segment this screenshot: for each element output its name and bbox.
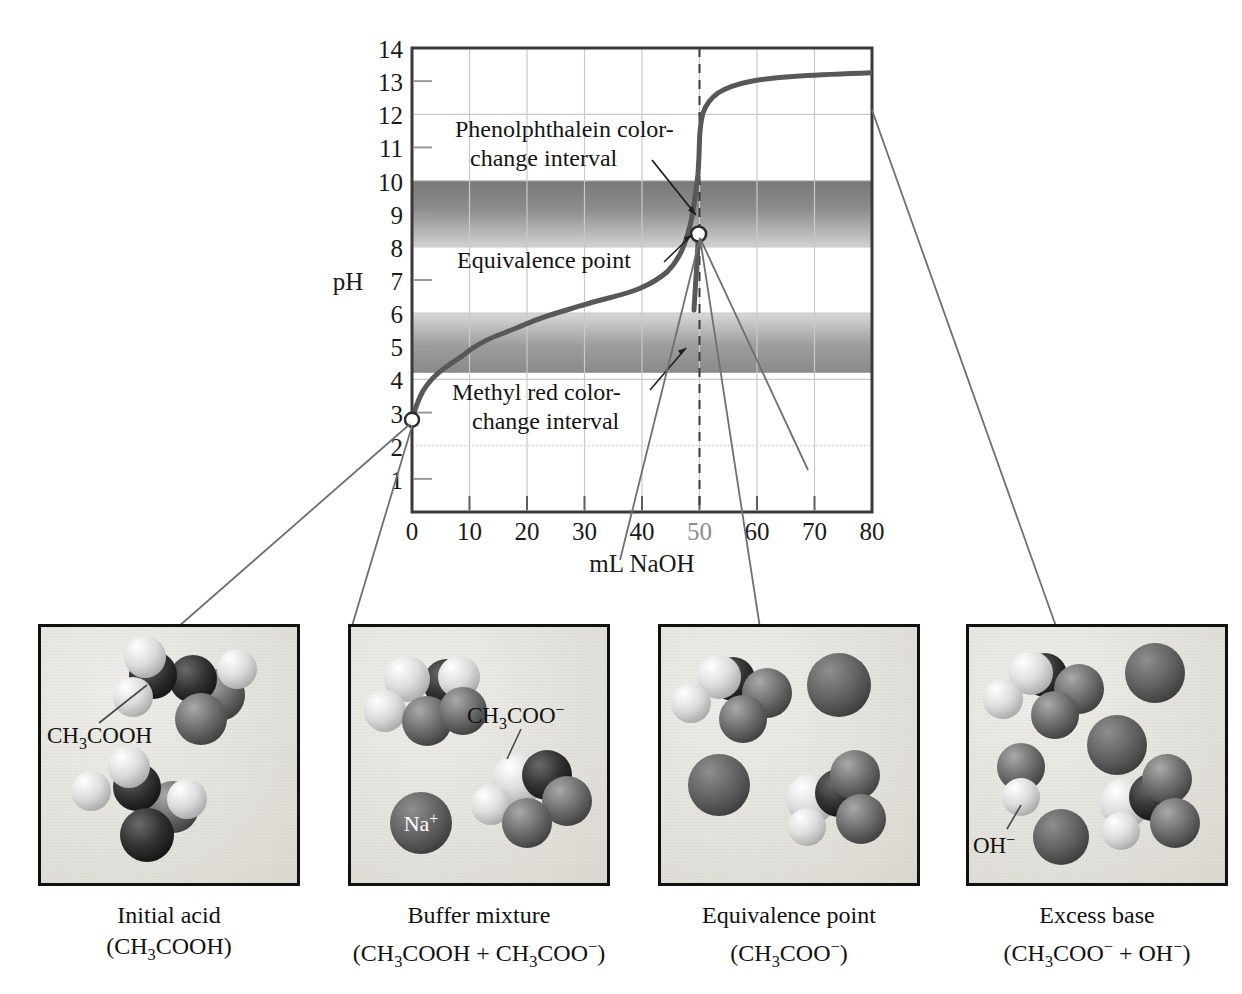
y-tick-14: 14 (378, 36, 404, 63)
caption-line2: (CH3COO− + OH−) (947, 931, 1242, 977)
methyl-red-annotation-line1: Methyl red color- (452, 379, 621, 405)
hydrogen-atom (108, 746, 150, 788)
caption-line2: (CH3COOH) (19, 931, 319, 970)
ch3coo-minus-label: CH3COO− (467, 701, 565, 732)
y-tick-12: 12 (378, 102, 403, 129)
panel-equivalence-point[interactable] (658, 624, 920, 886)
x-tick-80: 80 (860, 518, 885, 545)
hydrogen-atom (167, 779, 207, 819)
x-tick-40: 40 (630, 518, 655, 545)
equivalence-point-marker[interactable] (691, 227, 706, 242)
hydrogen-atom (1102, 812, 1140, 850)
oh-minus-label: OH− (973, 831, 1015, 858)
y-tick-6: 6 (391, 301, 404, 328)
titration-figure: 14 13 12 11 10 9 8 7 6 5 4 3 2 1 pH 0 10… (0, 0, 1242, 994)
phenolphthalein-annotation-line1: Phenolphthalein color- (455, 116, 674, 142)
y-tick-11: 11 (379, 135, 403, 162)
x-tick-60: 60 (745, 518, 770, 545)
acetate-molecule-lower-right (471, 750, 592, 848)
y-tick-10: 10 (378, 169, 403, 196)
x-tick-50: 50 (687, 518, 712, 545)
y-tick-2: 2 (391, 434, 404, 461)
oxygen-atom (830, 750, 880, 800)
caption-line2: (CH3COOH + CH3COO−) (329, 931, 629, 977)
molecule-group-acetic-acid: CH3COOH (41, 627, 297, 883)
caption-line1: Equivalence point (702, 902, 876, 928)
y-tick-5: 5 (391, 334, 404, 361)
caption-excess-base: Excess base (CH3COO− + OH−) (947, 900, 1242, 977)
x-tick-20: 20 (515, 518, 540, 545)
oxygen-atom (1031, 691, 1079, 739)
caption-line1: Buffer mixture (408, 902, 551, 928)
ch3cooh-label: CH3COOH (47, 723, 152, 752)
sodium-ion (1087, 715, 1147, 775)
y-axis-title: pH (333, 268, 364, 295)
caption-line1: Excess base (1039, 902, 1154, 928)
sodium-ion (688, 754, 750, 816)
equivalence-point-label: Equivalence point (457, 247, 631, 273)
hydrogen-atom (217, 649, 257, 689)
hydrogen-atom (71, 771, 111, 811)
x-tick-0: 0 (406, 518, 419, 545)
sodium-ion (807, 653, 871, 717)
sodium-ion (1125, 643, 1185, 703)
oxygen-atom (1150, 798, 1200, 848)
y-tick-3: 3 (391, 401, 404, 428)
acetate-molecule-upper-left (983, 651, 1104, 739)
hydrogen-atom (364, 690, 406, 732)
oxygen-atom (502, 798, 552, 848)
chart-canvas: 14 13 12 11 10 9 8 7 6 5 4 3 2 1 pH 0 10… (0, 0, 1242, 600)
hydrogen-atom (788, 808, 826, 846)
x-tick-30: 30 (572, 518, 597, 545)
carbon-atom (120, 808, 174, 862)
oxygen-atom (836, 794, 886, 844)
y-tick-13: 13 (378, 69, 403, 96)
x-axis-title: mL NaOH (589, 550, 694, 577)
caption-equivalence-point: Equivalence point (CH3COO−) (639, 900, 939, 977)
molecule-group-excess-base: OH− (969, 627, 1225, 883)
acetic-acid-molecule-lower (71, 746, 207, 862)
molecule-group-equivalence (661, 627, 917, 883)
caption-line1: Initial acid (117, 902, 220, 928)
panel-initial-acid[interactable]: CH3COOH (38, 624, 300, 886)
y-tick-1: 1 (391, 467, 404, 494)
caption-line2: (CH3COO−) (639, 931, 939, 977)
titration-chart: 14 13 12 11 10 9 8 7 6 5 4 3 2 1 pH 0 10… (0, 0, 1242, 600)
hydrogen-atom (1002, 778, 1040, 816)
phenolphthalein-annotation-line2: change interval (470, 145, 618, 171)
molecule-group-buffer: Na+ CH3COO− (351, 627, 607, 883)
x-tick-70: 70 (802, 518, 827, 545)
hydrogen-atom (124, 636, 166, 678)
acetate-molecule-upper-left (364, 656, 487, 746)
sodium-ion: Na+ (390, 792, 452, 854)
y-tick-8: 8 (391, 235, 404, 262)
molecular-panels: CH3COOH (0, 624, 1242, 914)
panel-excess-base[interactable]: OH− (966, 624, 1228, 886)
sodium-ion (1033, 809, 1089, 865)
hydrogen-atom (983, 679, 1023, 719)
caption-buffer-mixture: Buffer mixture (CH3COOH + CH3COO−) (329, 900, 629, 977)
hydrogen-atom (671, 683, 711, 723)
oxygen-atom (1142, 754, 1192, 804)
panel-buffer-mixture[interactable]: Na+ CH3COO− (348, 624, 610, 886)
caption-initial-acid: Initial acid (CH3COOH) (19, 900, 319, 970)
y-tick-9: 9 (391, 202, 404, 229)
initial-point-marker[interactable] (405, 413, 419, 427)
oxygen-atom (719, 695, 767, 743)
acetate-molecule-upper-left (671, 655, 792, 743)
x-tick-10: 10 (457, 518, 482, 545)
oxygen-atom (175, 693, 227, 745)
panel-captions: Initial acid (CH3COOH) Buffer mixture (C… (0, 900, 1242, 994)
y-tick-7: 7 (391, 268, 404, 295)
acetate-molecule-lower-right (786, 750, 886, 846)
y-tick-4: 4 (391, 367, 404, 394)
methyl-red-annotation-line2: change interval (472, 408, 620, 434)
